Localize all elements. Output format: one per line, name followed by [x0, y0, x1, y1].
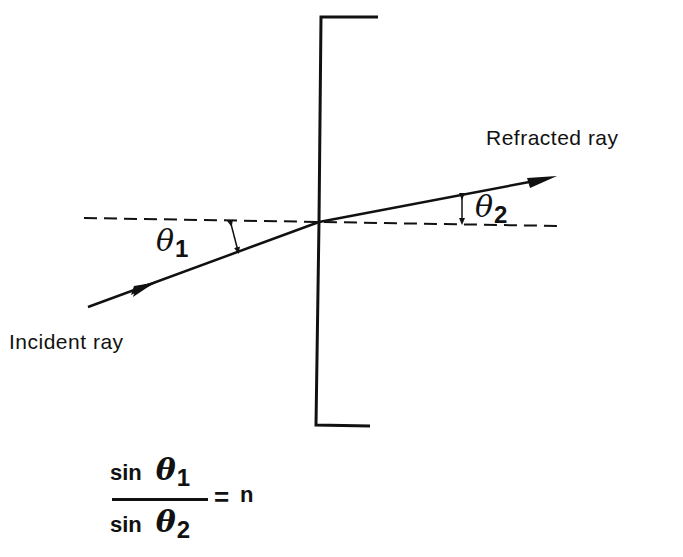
equals-sign: = [214, 482, 229, 513]
refracted-ray [319, 176, 557, 222]
equation-numerator: sin θ1 [110, 452, 190, 487]
fraction-bar [112, 498, 208, 501]
refractive-index-n: n [240, 482, 253, 508]
theta1-angle-marker [231, 224, 238, 251]
refracted-ray-label: Refracted ray [486, 126, 619, 150]
incident-ray [88, 222, 319, 307]
equation-denominator: sin θ2 [110, 504, 190, 539]
theta2-label: θ2 [475, 189, 507, 224]
incident-ray-label: Incident ray [9, 330, 124, 354]
refracted-arrowhead-icon [527, 176, 557, 188]
refraction-diagram [0, 0, 683, 557]
theta1-label: θ1 [156, 223, 188, 258]
